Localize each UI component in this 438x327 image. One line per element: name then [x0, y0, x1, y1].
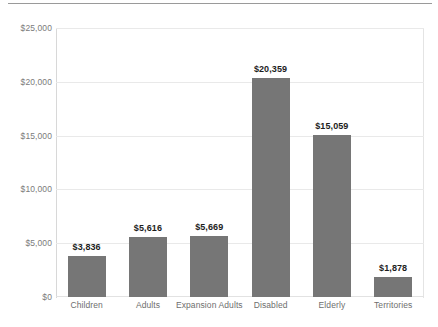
bar-value-label: $5,669: [195, 222, 223, 232]
bar-disabled[interactable]: [252, 78, 290, 297]
bar-value-label: $15,059: [315, 121, 348, 131]
y-axis-tick-label: $15,000: [2, 131, 52, 141]
bar-group-expansion-adults[interactable]: $5,669: [179, 28, 240, 297]
bar-group-territories[interactable]: $1,878: [363, 28, 424, 297]
bar-value-label: $1,878: [379, 263, 407, 273]
bar-group-disabled[interactable]: $20,359: [240, 28, 301, 297]
bar-value-label: $5,616: [134, 223, 162, 233]
bar-elderly[interactable]: [313, 135, 351, 297]
bar-value-label: $3,836: [73, 242, 101, 252]
bar-group-elderly[interactable]: $15,059: [301, 28, 362, 297]
y-axis-tick-label: $0: [2, 292, 52, 302]
chart-screenshot: $25,000 $20,000 $15,000 $10,000 $5,000 $…: [0, 0, 438, 327]
bar-value-label: $20,359: [254, 64, 287, 74]
bar-chart: $25,000 $20,000 $15,000 $10,000 $5,000 $…: [0, 0, 438, 327]
bar-expansion-adults[interactable]: [190, 236, 228, 297]
x-axis-label-territories: Territories: [354, 300, 432, 310]
y-axis-tick-label: $20,000: [2, 77, 52, 87]
plot-area: $3,836 $5,616 $5,669 $20,359: [56, 28, 424, 297]
bar-children[interactable]: [68, 256, 106, 297]
y-axis-tick-label: $10,000: [2, 184, 52, 194]
x-axis-category-labels: Children Adults Expansion Adults Disable…: [56, 300, 424, 320]
y-axis-tick-label: $25,000: [2, 23, 52, 33]
bar-adults[interactable]: [129, 237, 167, 297]
bar-series: $3,836 $5,616 $5,669 $20,359: [56, 28, 424, 297]
bar-group-children[interactable]: $3,836: [56, 28, 117, 297]
bar-group-adults[interactable]: $5,616: [117, 28, 178, 297]
y-axis-tick-label: $5,000: [2, 238, 52, 248]
y-axis-tick-labels: $25,000 $20,000 $15,000 $10,000 $5,000 $…: [0, 28, 52, 297]
bar-territories[interactable]: [374, 277, 412, 297]
